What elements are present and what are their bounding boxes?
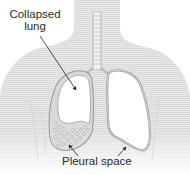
collapsed-lung-label: Collapsed lung: [6, 8, 64, 32]
collapsed-lung-label-line1: Collapsed: [6, 8, 64, 20]
pleural-space-label: Pleural space: [62, 155, 132, 167]
collapsed-lung-label-line2: lung: [6, 20, 64, 32]
